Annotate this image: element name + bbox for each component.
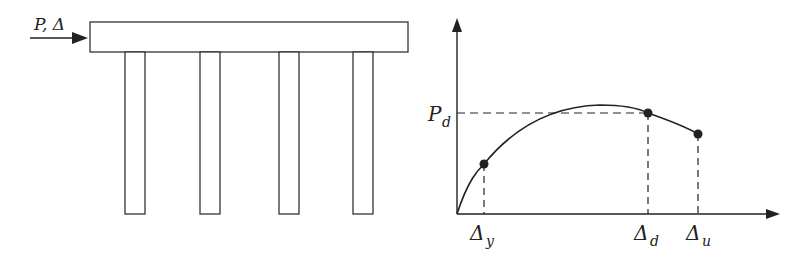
diagram-canvas: P, Δ P d Δ y Δ d Δ u <box>0 0 811 260</box>
design-point <box>644 109 653 118</box>
yield-point <box>480 160 489 169</box>
svg-text:y: y <box>485 233 495 249</box>
column-3 <box>279 52 299 214</box>
bent-frame <box>30 22 408 214</box>
column-2 <box>200 52 220 214</box>
dd-label: Δ d <box>633 221 659 249</box>
svg-text:d: d <box>650 233 659 249</box>
svg-text:Δ: Δ <box>685 221 700 245</box>
cap-beam <box>90 22 408 52</box>
svg-text:P: P <box>427 102 442 126</box>
svg-text:d: d <box>442 114 451 130</box>
load-label: P, Δ <box>33 14 65 34</box>
svg-text:Δ: Δ <box>469 221 484 245</box>
svg-text:u: u <box>702 233 711 249</box>
pushover-curve <box>457 105 698 214</box>
ultimate-point <box>694 130 703 139</box>
svg-text:Δ: Δ <box>633 221 648 245</box>
column-4 <box>353 52 373 214</box>
du-label: Δ u <box>685 221 711 249</box>
dy-label: Δ y <box>469 221 495 249</box>
column-1 <box>125 52 145 214</box>
pd-label: P d <box>427 102 451 130</box>
x-axis-arrow-icon <box>766 209 780 219</box>
pushover-chart <box>452 18 780 219</box>
y-axis-arrow-icon <box>452 18 462 32</box>
